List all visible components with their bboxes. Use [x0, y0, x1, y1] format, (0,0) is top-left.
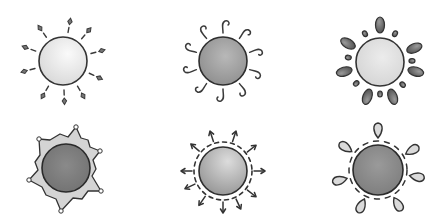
sun-icon [294, 112, 441, 224]
sun-icon [294, 0, 441, 112]
sun-illustrations-grid [0, 0, 441, 224]
sun-teardrop-rays [294, 112, 441, 224]
sun-curly-rays [147, 0, 294, 112]
sun-icon [147, 0, 294, 112]
sun-star-frame [0, 112, 147, 224]
sun-icon [0, 0, 147, 112]
sun-arrow-rays [147, 112, 294, 224]
sun-oval-petals [294, 0, 441, 112]
sun-diamond-rays [0, 0, 147, 112]
sun-icon [0, 112, 147, 224]
sun-icon [147, 112, 294, 224]
